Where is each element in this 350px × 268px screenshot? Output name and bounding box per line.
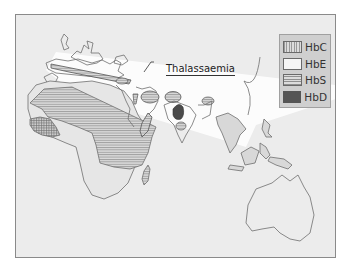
legend-label: HbE bbox=[305, 58, 326, 70]
legend-label: HbD bbox=[304, 91, 327, 103]
legend-label: HbC bbox=[305, 41, 327, 53]
legend-item-hbd: HbD bbox=[283, 89, 327, 106]
legend-item-hbs: HbS bbox=[283, 72, 327, 89]
hbc-swatch-icon bbox=[283, 41, 302, 53]
hbs-swatch-icon bbox=[283, 74, 302, 86]
map-frame: Thalassaemia HbC HbE HbS HbD bbox=[15, 14, 336, 258]
madagascar bbox=[142, 165, 150, 185]
hbd-region bbox=[173, 104, 184, 119]
legend-item-hbe: HbE bbox=[283, 56, 327, 73]
thalassaemia-label: Thalassaemia bbox=[166, 63, 235, 76]
legend-item-hbc: HbC bbox=[283, 39, 327, 56]
legend: HbC HbE HbS HbD bbox=[279, 34, 331, 108]
hbd-swatch-icon bbox=[283, 91, 301, 103]
legend-label: HbS bbox=[305, 74, 326, 86]
australia-outline bbox=[246, 175, 314, 241]
hbe-swatch-icon bbox=[283, 58, 302, 70]
